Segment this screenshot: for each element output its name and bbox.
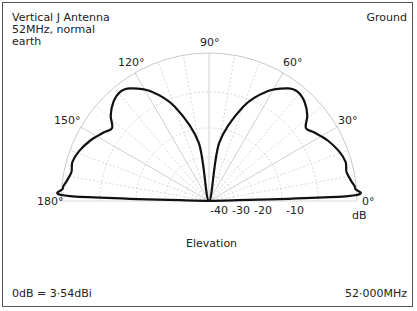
angle-label-60: 60° — [283, 56, 303, 69]
db-unit-label: dB — [352, 209, 367, 222]
db-tick-minus10: -10 — [286, 204, 304, 217]
angle-label-30: 30° — [338, 114, 358, 127]
angle-label-180: 180° — [37, 195, 64, 208]
angle-label-150: 150° — [54, 114, 81, 127]
db-tick-minus30: -30 — [232, 204, 250, 217]
angle-label-120: 120° — [118, 56, 145, 69]
angle-label-90: 90° — [200, 36, 220, 49]
elevation-axis-label: Elevation — [186, 237, 237, 250]
angle-label-0: 0° — [362, 195, 375, 208]
db-tick-minus20: -20 — [254, 204, 272, 217]
db-tick-minus40: -40 — [210, 204, 228, 217]
reference-level: 0dB = 3·54dBi — [12, 287, 92, 300]
frequency-label: 52·000MHz — [345, 287, 407, 300]
